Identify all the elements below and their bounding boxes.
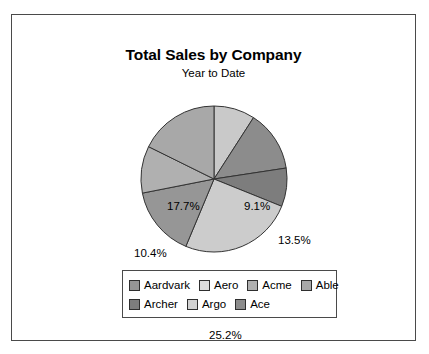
legend-label: Ace [250, 298, 270, 311]
legend-swatch-icon [187, 299, 198, 310]
chart-frame: Total Sales by Company Year to Date 9.1%… [11, 14, 416, 341]
legend-swatch-icon [235, 299, 246, 310]
legend-item[interactable]: Aardvark [129, 279, 190, 292]
legend-swatch-icon [129, 280, 140, 291]
legend-swatch-icon [301, 280, 312, 291]
legend-item[interactable]: Ace [235, 298, 270, 311]
pie-chart: 9.1% 13.5% 8.5% 25.2% 15.6% 10.4% 17.7% [12, 103, 415, 258]
legend-label: Acme [262, 279, 291, 292]
legend-label: Able [316, 279, 339, 292]
legend-label: Aardvark [144, 279, 190, 292]
legend-row: ArcherArgoAce [129, 295, 330, 314]
pie-slice-group [141, 106, 287, 252]
slice-value-label: 25.2% [209, 329, 242, 342]
slice-value-label: 9.1% [244, 200, 270, 213]
title-block: Total Sales by Company Year to Date [12, 46, 415, 81]
legend-item[interactable]: Acme [247, 279, 291, 292]
slice-value-label: 13.5% [278, 234, 311, 247]
legend-label: Argo [202, 298, 226, 311]
legend-row: AardvarkAeroAcmeAble [129, 276, 330, 295]
slice-value-label: 10.4% [134, 247, 167, 260]
page-title: Total Sales by Company [12, 46, 415, 64]
chart-subtitle: Year to Date [12, 66, 415, 81]
chart-page: Total Sales by Company Year to Date 9.1%… [0, 0, 429, 354]
legend-label: Aero [214, 279, 238, 292]
chart-legend: AardvarkAeroAcmeAble ArcherArgoAce [122, 270, 337, 318]
legend-label: Archer [144, 298, 178, 311]
legend-swatch-icon [247, 280, 258, 291]
legend-item[interactable]: Argo [187, 298, 226, 311]
legend-item[interactable]: Archer [129, 298, 178, 311]
slice-value-label: 17.7% [167, 200, 200, 213]
legend-swatch-icon [199, 280, 210, 291]
legend-swatch-icon [129, 299, 140, 310]
legend-item[interactable]: Aero [199, 279, 238, 292]
legend-item[interactable]: Able [301, 279, 339, 292]
pie-svg [139, 103, 289, 255]
